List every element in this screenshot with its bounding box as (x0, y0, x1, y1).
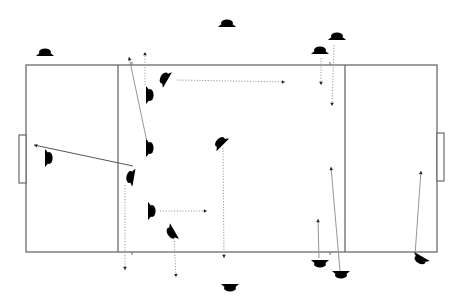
arrowhead-icon (34, 144, 38, 148)
player-light-team (36, 48, 54, 56)
arrowhead-icon (316, 219, 320, 222)
player-icon (163, 223, 179, 242)
arrowhead-icon (128, 57, 132, 61)
arrowhead-icon (204, 209, 207, 213)
player-light-team (328, 32, 346, 40)
goal-right (437, 133, 444, 181)
movement-arrow (415, 171, 423, 255)
movement-arrow (319, 58, 323, 85)
player-icon (148, 202, 156, 220)
arrowhead-icon (123, 267, 127, 270)
player-icon (36, 48, 54, 56)
player-icon (45, 149, 53, 167)
arrowhead-icon (143, 52, 147, 55)
player-dark-team (211, 133, 229, 151)
player-dark-team (156, 68, 172, 87)
movement-arrow (222, 148, 226, 258)
player-light-team (45, 149, 53, 167)
movement-arrow (174, 238, 178, 277)
player-dark-team (125, 168, 136, 187)
movement-arrow (128, 57, 147, 142)
arrowhead-icon (329, 167, 333, 170)
field-boundary (26, 65, 437, 252)
player-icon (125, 168, 136, 187)
player-icon (146, 139, 154, 157)
arrowhead-icon (330, 103, 334, 106)
arrowhead-icon (174, 274, 178, 277)
player-icon (311, 46, 329, 54)
player-light-team (311, 46, 329, 54)
player-light-team (146, 86, 154, 104)
movement-arrow (329, 167, 340, 271)
player-dark-team (410, 252, 429, 268)
arrowhead-icon (419, 171, 423, 174)
arrowhead-icon (319, 82, 323, 85)
player-dark-team (311, 260, 329, 268)
movement-arrow (160, 209, 207, 213)
arrowhead-icon (222, 255, 226, 258)
player-icon (311, 260, 329, 268)
player-icon (221, 284, 239, 292)
player-icon (218, 19, 236, 27)
player-icon (328, 32, 346, 40)
goal-left (19, 135, 26, 183)
field (19, 62, 444, 255)
player-light-team (146, 139, 154, 157)
movement-arrow (123, 185, 127, 270)
player-icon (332, 271, 350, 279)
tactical-diagram (0, 0, 462, 302)
movement-arrow (143, 52, 147, 85)
movement-arrow (330, 45, 334, 106)
player-icon (211, 133, 229, 151)
player-dark-team (163, 223, 179, 242)
player-dark-team (221, 284, 239, 292)
movement-arrow (177, 80, 285, 84)
player-light-team (218, 19, 236, 27)
player-dark-team (332, 271, 350, 279)
player-icon (156, 68, 172, 87)
arrowhead-icon (282, 80, 285, 84)
players (36, 19, 430, 291)
movement-arrows (34, 45, 423, 277)
player-icon (146, 86, 154, 104)
player-icon (410, 252, 429, 268)
player-light-team (148, 202, 156, 220)
